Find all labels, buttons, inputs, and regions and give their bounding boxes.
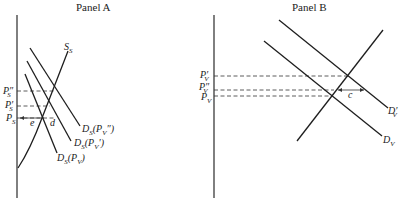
label-dv: DV [382,134,395,148]
supply-curve-sv [297,30,383,141]
arrowhead-left-icon [20,116,24,120]
point-e-label: e [30,117,35,128]
panel-b: Panel B P′V P″V PV c D′V DV [198,1,398,198]
demand-curve-ds-pv-double-prime [30,48,80,126]
label-ds-pv-double-prime: DS(PV″) [81,123,115,137]
supply-demand-diagram: Panel A SS P″S P′S PS e d DS(PV″) DS(PV′… [0,0,404,198]
price-label-pv: PV [200,91,212,105]
price-label-ps-prime: P′S [4,99,14,113]
point-d-label: d [50,117,56,128]
panel-b-title: Panel B [292,1,327,13]
point-c-label: c [348,89,353,100]
price-label-ps-double-prime: P″S [2,85,14,99]
panel-a-title: Panel A [76,1,111,13]
arrowhead-left-icon [338,88,342,92]
label-dv-prime: D′V [387,105,398,119]
panel-a: Panel A SS P″S P′S PS e d DS(PV″) DS(PV′… [2,1,115,198]
price-label-ps: PS [5,112,16,126]
supply-label-ss: SS [64,41,73,55]
label-ds-pv-prime: DS(PV′) [73,137,105,151]
label-ds-pv: DS(PV) [56,152,85,166]
